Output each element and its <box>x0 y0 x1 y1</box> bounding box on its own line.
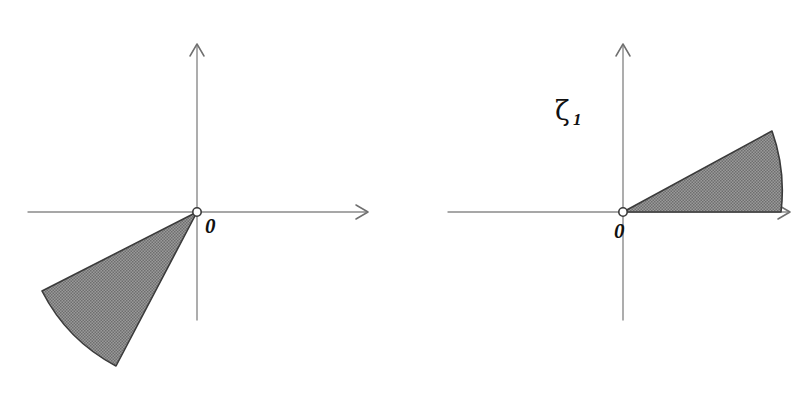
left-origin-label: 0 <box>205 214 216 238</box>
zeta-subscript-label: 1 <box>573 110 582 129</box>
left-origin-marker <box>193 208 201 216</box>
sector-figure-svg: 0 0 ζ 1 <box>0 0 805 394</box>
right-panel: 0 ζ 1 <box>448 44 790 320</box>
left-sector-region <box>42 212 197 366</box>
right-origin-marker <box>619 208 627 216</box>
right-sector-region <box>623 131 782 212</box>
right-origin-label: 0 <box>614 219 625 243</box>
zeta-variable-label: ζ <box>555 95 570 126</box>
figure-container: 0 0 ζ 1 <box>0 0 805 394</box>
left-panel: 0 <box>28 44 368 366</box>
